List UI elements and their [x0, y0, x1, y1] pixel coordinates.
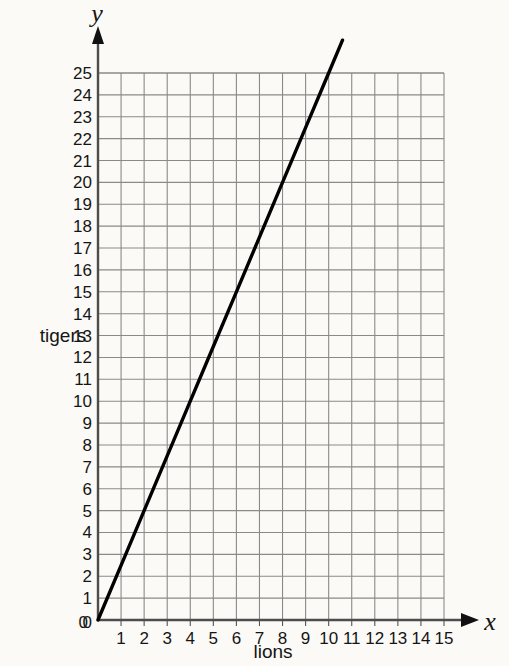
y-axis-tick-labels: 0123456789101112131415161718192021222324… [73, 64, 92, 632]
x-axis-title: lions [253, 641, 292, 662]
x-tick-label: 10 [319, 629, 338, 648]
x-tick-label: 4 [186, 629, 195, 648]
y-tick-label: 22 [73, 130, 92, 149]
y-tick-label: 25 [73, 64, 92, 83]
y-tick-label: 7 [83, 458, 92, 477]
x-tick-label: 0 [79, 613, 88, 632]
y-tick-label: 4 [83, 523, 92, 542]
x-tick-label: 14 [411, 629, 430, 648]
x-tick-label: 6 [232, 629, 241, 648]
y-tick-label: 16 [73, 261, 92, 280]
y-tick-label: 17 [73, 239, 92, 258]
line-graph: 0123456789101112131415161718192021222324… [0, 0, 509, 666]
vertical-gridlines [121, 73, 444, 626]
y-axis-letter: y [88, 0, 103, 28]
y-tick-label: 5 [83, 502, 92, 521]
y-axis-title: tigers [40, 325, 86, 346]
y-tick-label: 15 [73, 283, 92, 302]
x-axis-letter: x [483, 607, 496, 636]
x-tick-label: 15 [435, 629, 454, 648]
y-tick-label: 2 [83, 567, 92, 586]
y-tick-label: 6 [83, 480, 92, 499]
y-tick-label: 23 [73, 108, 92, 127]
y-tick-label: 20 [73, 173, 92, 192]
y-tick-label: 14 [73, 305, 92, 324]
x-tick-label: 13 [388, 629, 407, 648]
y-tick-label: 21 [73, 152, 92, 171]
x-tick-label: 2 [139, 629, 148, 648]
x-tick-label: 3 [162, 629, 171, 648]
y-tick-label: 19 [73, 195, 92, 214]
y-tick-label: 11 [74, 370, 92, 389]
x-tick-label: 5 [209, 629, 218, 648]
y-tick-label: 12 [73, 348, 92, 367]
y-tick-label: 24 [73, 86, 92, 105]
x-tick-label: 11 [343, 629, 361, 648]
y-tick-label: 10 [73, 392, 92, 411]
x-tick-label: 1 [116, 629, 125, 648]
y-tick-label: 18 [73, 217, 92, 236]
y-tick-label: 3 [83, 545, 92, 564]
x-tick-label: 9 [301, 629, 310, 648]
y-tick-label: 8 [83, 436, 92, 455]
horizontal-gridlines [98, 73, 444, 598]
y-tick-label: 9 [83, 414, 92, 433]
graph-page: 0123456789101112131415161718192021222324… [0, 0, 509, 666]
y-tick-label: 1 [83, 589, 92, 608]
x-tick-label: 12 [365, 629, 384, 648]
